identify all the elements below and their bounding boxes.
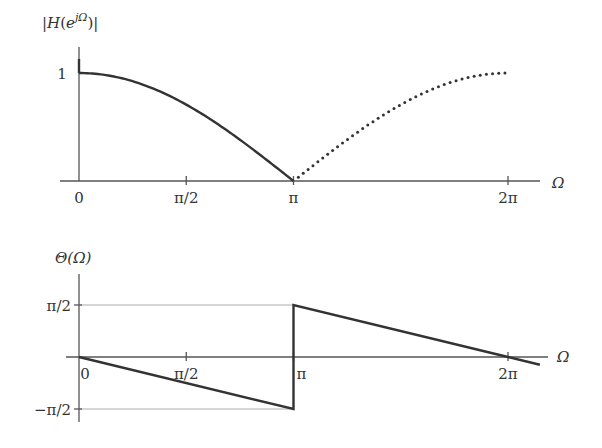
magnitude-dot	[356, 131, 359, 134]
magnitude-dot	[409, 98, 412, 101]
magnitude-x-tick-label: π/2	[174, 189, 198, 207]
phase-y-tick-label: π/2	[47, 297, 71, 315]
phase-x-tick-label: 0	[80, 365, 90, 383]
magnitude-dot	[302, 172, 305, 175]
magnitude-dot	[387, 110, 390, 113]
magnitude-dot	[336, 145, 339, 148]
magnitude-dot	[371, 120, 374, 123]
magnitude-x-label: Ω	[551, 174, 564, 192]
magnitude-dot	[326, 153, 329, 156]
magnitude-dot	[443, 83, 446, 86]
magnitude-dot	[366, 124, 369, 127]
magnitude-dot	[455, 79, 458, 82]
magnitude-dot	[467, 76, 470, 79]
magnitude-dot	[491, 72, 494, 75]
magnitude-dot	[311, 164, 314, 167]
magnitude-x-tick-label: π	[289, 189, 299, 207]
figure: |H(ejΩ)| Ω 0π/2π2π 1 Θ(Ω) Ω 0π/2π2π π/2−…	[0, 0, 602, 448]
magnitude-dot	[403, 101, 406, 104]
magnitude-dot	[321, 157, 324, 160]
magnitude-dot	[503, 72, 506, 75]
magnitude-dot	[316, 160, 319, 163]
phase-x-tick-label: π	[297, 365, 307, 383]
magnitude-dot	[377, 117, 380, 120]
magnitude-dot	[398, 104, 401, 107]
magnitude-dot	[461, 78, 464, 81]
magnitude-dot	[414, 95, 417, 98]
magnitude-dot	[361, 127, 364, 130]
magnitude-dot	[473, 75, 476, 78]
magnitude-x-tick-label: 2π	[498, 189, 518, 207]
magnitude-dot	[426, 90, 429, 93]
magnitude-dot	[331, 149, 334, 152]
magnitude-dot	[307, 168, 310, 171]
magnitude-dot	[297, 176, 300, 179]
magnitude-dot	[431, 88, 434, 91]
magnitude-dot	[497, 72, 500, 75]
phase-x-tick-label: 2π	[498, 365, 518, 383]
phase-chart: Θ(Ω) Ω 0π/2π2π π/2−π/2	[34, 249, 569, 422]
magnitude-x-tick-label: 0	[74, 189, 84, 207]
magnitude-dot	[485, 73, 488, 76]
phase-y-label: Θ(Ω)	[55, 249, 92, 267]
magnitude-series-solid	[79, 73, 294, 181]
magnitude-dot	[449, 81, 452, 84]
magnitude-chart: |H(ejΩ)| Ω 0π/2π2π 1	[42, 11, 564, 207]
magnitude-dot	[437, 85, 440, 88]
magnitude-series-dotted	[297, 72, 507, 179]
magnitude-y-label: |H(ejΩ)|	[42, 11, 98, 32]
magnitude-dot	[382, 113, 385, 116]
magnitude-dot	[479, 74, 482, 77]
magnitude-dot	[341, 142, 344, 145]
magnitude-dot	[346, 138, 349, 141]
phase-x-label: Ω	[556, 348, 569, 366]
magnitude-dot	[392, 107, 395, 110]
phase-y-tick-label: −π/2	[34, 401, 71, 419]
magnitude-dot	[351, 134, 354, 137]
magnitude-dot	[420, 93, 423, 96]
magnitude-y-tick-label: 1	[57, 65, 67, 83]
